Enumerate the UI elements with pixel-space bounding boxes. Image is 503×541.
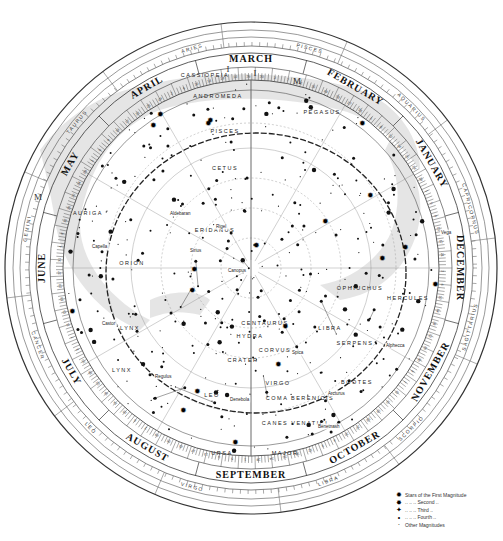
- legend-row-first: ✹ Stars of the First Magnitude: [393, 491, 503, 499]
- svg-text:18: 18: [432, 321, 437, 326]
- svg-text:✹: ✹: [359, 119, 366, 128]
- star-name-label: Rigel: [216, 224, 226, 229]
- magnitude-legend: ✹ Stars of the First Magnitude ✸ .. .. .…: [393, 491, 503, 529]
- svg-text:✹: ✹: [253, 241, 260, 250]
- zodiac-label-capricornus: CAPRICORNUS: [461, 182, 481, 235]
- svg-text:7: 7: [70, 336, 74, 339]
- svg-text:✹: ✹: [232, 438, 239, 447]
- constellation-label: AURIGA: [73, 210, 103, 216]
- svg-text:30: 30: [416, 357, 421, 362]
- svg-text:22: 22: [428, 333, 433, 338]
- svg-text:29: 29: [154, 432, 159, 437]
- month-label-august: AUGUST: [124, 430, 171, 463]
- svg-text:✹: ✹: [194, 387, 201, 396]
- star-name-label: Denebola: [230, 397, 250, 402]
- svg-text:✹: ✹: [150, 121, 157, 130]
- star-name-label: Vega: [441, 230, 452, 235]
- star-name-label: Aldebaran: [170, 211, 191, 216]
- svg-text:26: 26: [247, 74, 251, 78]
- svg-text:31: 31: [344, 431, 349, 436]
- svg-text:2: 2: [144, 426, 148, 430]
- star-name-label: Regulus: [155, 374, 172, 379]
- month-label-september: SEPTEMBER: [216, 469, 287, 480]
- constellation-label: CORVUS: [259, 347, 291, 353]
- constellation-label: CETUS: [212, 165, 238, 171]
- svg-text:22: 22: [233, 75, 237, 79]
- svg-text:✹: ✹: [367, 191, 374, 200]
- milky-way-letter: I: [227, 64, 230, 74]
- fourth-magnitude-star-icon: •: [393, 514, 405, 521]
- legend-row-third: ✦ .. .. .. Third ..: [393, 506, 503, 514]
- constellation-label: ANDROMEDA: [193, 93, 242, 99]
- constellation-label: COMA BERENICIS: [266, 395, 334, 401]
- constellation-label: HERCULES: [387, 295, 429, 301]
- svg-text:21: 21: [178, 444, 183, 449]
- svg-text:✹: ✹: [402, 243, 409, 252]
- star-name-label: Canopus: [228, 268, 247, 273]
- svg-text:31: 31: [58, 258, 62, 262]
- legend-row-fourth: • .. .. .. Fourth ..: [393, 514, 503, 522]
- svg-text:24: 24: [412, 165, 417, 170]
- constellation-label: LYNX: [112, 367, 132, 373]
- svg-text:9: 9: [433, 214, 437, 217]
- svg-text:4: 4: [333, 438, 337, 442]
- constellation-label: PEGASUS: [303, 109, 340, 115]
- third-magnitude-star-icon: ✦: [393, 506, 405, 513]
- svg-text:2: 2: [441, 270, 445, 272]
- svg-text:24: 24: [269, 456, 273, 460]
- svg-text:✹: ✹: [191, 265, 198, 274]
- svg-text:17: 17: [191, 448, 196, 453]
- star-name-label: Sirius: [190, 248, 202, 253]
- svg-text:✹: ✹: [322, 217, 329, 226]
- svg-text:27: 27: [57, 271, 61, 275]
- month-label-june: JUNE: [36, 253, 47, 283]
- milky-way-letter: M: [34, 192, 42, 202]
- zodiac-label-cancer: CANCER: [30, 330, 46, 360]
- svg-text:1: 1: [244, 457, 246, 461]
- constellation-label: LYNX: [120, 325, 140, 331]
- svg-text:13: 13: [204, 452, 209, 457]
- legend-row-second: ✸ .. .. .. Second ..: [393, 499, 503, 507]
- star-chart: 2610141822263037111519232731481216202428…: [0, 0, 503, 541]
- star-name-label: Arcturus: [328, 391, 346, 396]
- svg-text:8: 8: [321, 443, 324, 447]
- svg-text:11: 11: [66, 322, 71, 327]
- constellation-label: CRATER: [227, 357, 258, 363]
- svg-text:✹: ✹: [379, 254, 386, 263]
- constellation-label: ORION: [119, 260, 145, 266]
- svg-text:23: 23: [365, 417, 371, 423]
- constellation-label: HYDRA: [237, 333, 264, 339]
- svg-text:✹: ✹: [69, 307, 76, 316]
- zodiac-label-virgo: VIRGO: [180, 481, 204, 493]
- svg-text:✹: ✹: [189, 286, 196, 295]
- svg-text:23: 23: [58, 284, 62, 288]
- legend-row-other: · Other Magnitudes: [393, 521, 503, 529]
- constellation-label: BOOTES: [341, 379, 373, 385]
- svg-text:3: 3: [75, 348, 79, 352]
- svg-text:✹: ✹: [432, 280, 439, 289]
- svg-text:✹: ✹: [180, 406, 187, 415]
- svg-text:5: 5: [231, 457, 233, 461]
- svg-text:✹: ✹: [205, 119, 212, 128]
- star-name-label: Castor: [102, 321, 116, 326]
- zodiac-label-pisces: PISCES: [296, 42, 324, 55]
- svg-text:27: 27: [355, 424, 361, 430]
- milky-way-letter: I: [254, 68, 257, 78]
- svg-text:✹: ✹: [157, 110, 164, 119]
- svg-text:28: 28: [256, 457, 260, 461]
- star-name-label: Spica: [292, 350, 304, 355]
- constellation-label: OPHIUCHUS: [337, 285, 384, 291]
- svg-text:5: 5: [429, 202, 433, 205]
- svg-text:14: 14: [435, 308, 440, 313]
- constellation-label: SERPENS: [337, 340, 374, 346]
- svg-text:1: 1: [424, 189, 428, 192]
- coordinate-grid: [63, 80, 439, 456]
- second-magnitude-star-icon: ✸: [393, 499, 405, 506]
- svg-text:28: 28: [418, 177, 423, 182]
- month-label-july: JULY: [60, 356, 84, 387]
- constellation-label: CENTAURUS: [241, 320, 288, 326]
- zodiac-label-leo: LEO: [84, 421, 99, 436]
- constellation-label: LEO: [204, 392, 220, 398]
- month-label-october: OCTOBER: [327, 428, 382, 466]
- svg-text:21: 21: [440, 253, 444, 257]
